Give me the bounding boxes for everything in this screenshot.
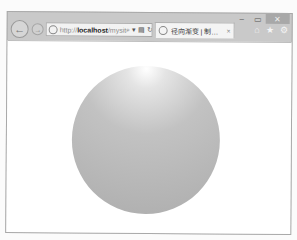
url-host: localhost xyxy=(77,26,108,33)
star-icon[interactable]: ★ xyxy=(266,25,274,35)
refresh-icon[interactable]: ↻ xyxy=(147,26,153,34)
compatibility-view-icon[interactable]: ▤ xyxy=(138,26,145,34)
window-controls: – ▭ ✕ xyxy=(234,14,290,24)
arrow-left-icon: ← xyxy=(14,23,25,35)
arrow-right-icon: → xyxy=(34,26,41,33)
home-icon[interactable]: ⌂ xyxy=(254,25,260,35)
radial-gradient-circle xyxy=(71,65,220,214)
browser-window: – ▭ ✕ ← → http:// localhost /mysit ⌕ ▾ ▤… xyxy=(5,11,293,235)
address-bar-icons: ⌕ ▾ ▤ ↻ xyxy=(126,26,153,34)
address-bar[interactable]: http:// localhost /mysit ⌕ ▾ ▤ ↻ xyxy=(46,22,153,37)
maximize-button[interactable]: ▭ xyxy=(250,14,266,24)
page-icon xyxy=(49,25,58,34)
gear-icon[interactable]: ⚙ xyxy=(280,25,288,35)
url-protocol: http:// xyxy=(60,26,78,33)
close-window-button[interactable]: ✕ xyxy=(266,14,290,24)
close-tab-icon[interactable]: × xyxy=(227,28,231,35)
back-button[interactable]: ← xyxy=(11,20,29,38)
toolbar-icons: ⌂ ★ ⚙ xyxy=(254,25,288,35)
tab-title: 径向渐变 | 制作圆形... xyxy=(171,26,223,36)
forward-button[interactable]: → xyxy=(32,23,44,35)
page-content xyxy=(6,40,291,234)
tab-active[interactable]: 径向渐变 | 制作圆形... × xyxy=(155,22,235,39)
tab-page-icon xyxy=(159,26,168,35)
chevron-down-icon[interactable]: ▾ xyxy=(132,26,136,34)
minimize-button[interactable]: – xyxy=(234,14,250,24)
search-icon[interactable]: ⌕ xyxy=(126,26,130,34)
url-path: /mysit xyxy=(108,26,126,33)
title-bar: – ▭ ✕ ← → http:// localhost /mysit ⌕ ▾ ▤… xyxy=(8,12,292,42)
